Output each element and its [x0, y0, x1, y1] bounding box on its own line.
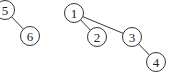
node-2: 2	[88, 28, 107, 47]
node-label: 2	[94, 30, 101, 45]
node-label: 1	[71, 6, 78, 21]
node-label: 4	[153, 55, 160, 70]
node-label: 5	[2, 3, 9, 18]
node-5: 5	[0, 1, 15, 20]
node-4: 4	[147, 53, 166, 72]
node-label: 3	[129, 30, 136, 45]
node-label: 6	[27, 29, 34, 44]
node-3: 3	[123, 28, 142, 47]
node-6: 6	[21, 27, 40, 46]
node-1: 1	[65, 4, 84, 23]
graph-diagram: 561234	[0, 0, 179, 77]
nodes-group: 561234	[0, 1, 166, 72]
